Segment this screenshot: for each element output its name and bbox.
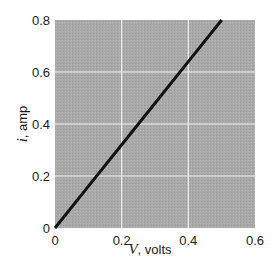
chart: 00.20.40.6 00.20.40.60.8 V, volts i, amp xyxy=(0,0,275,260)
x-tick-label: 0 xyxy=(51,233,58,248)
x-axis-label: V, volts xyxy=(128,241,172,257)
y-axis-unit: , amp xyxy=(15,106,30,139)
y-tick-label: 0 xyxy=(43,221,50,236)
y-axis-ticks: 00.20.40.60.8 xyxy=(32,13,50,236)
x-axis-unit: , volts xyxy=(138,242,172,257)
y-tick-label: 0.2 xyxy=(32,169,50,184)
x-tick-label: 0.4 xyxy=(179,233,197,248)
y-tick-label: 0.8 xyxy=(32,13,50,28)
y-axis-label: i, amp xyxy=(14,106,30,143)
y-tick-label: 0.4 xyxy=(32,117,50,132)
x-tick-label: 0.6 xyxy=(246,233,264,248)
y-tick-label: 0.6 xyxy=(32,65,50,80)
